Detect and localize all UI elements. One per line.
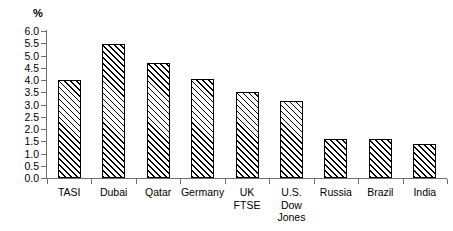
y-axis-tick-label-wrapper: 1.5 bbox=[0, 141, 39, 142]
plot-area bbox=[47, 31, 447, 178]
y-axis-tick-label: 5.5 bbox=[0, 38, 39, 48]
y-axis-tick bbox=[41, 56, 46, 57]
y-axis-tick bbox=[41, 105, 46, 106]
x-axis-tick bbox=[358, 179, 359, 184]
y-axis-tick-label-wrapper: 0.5 bbox=[0, 166, 39, 167]
y-axis-tick-label-wrapper: 3.0 bbox=[0, 105, 39, 106]
x-axis-tick bbox=[47, 179, 48, 184]
bar bbox=[58, 80, 81, 178]
y-axis-tick bbox=[41, 92, 46, 93]
x-axis-tick bbox=[225, 179, 226, 184]
x-axis-tick bbox=[314, 179, 315, 184]
x-axis-category-label-line: Jones bbox=[256, 211, 326, 224]
x-axis-tick bbox=[269, 179, 270, 184]
y-axis-tick bbox=[41, 166, 46, 167]
x-axis-tick bbox=[447, 179, 448, 184]
y-axis-tick-label: 3.5 bbox=[0, 87, 39, 97]
y-axis-tick-label-wrapper: 4.0 bbox=[0, 80, 39, 81]
bar-chart: % 0.00.51.01.52.02.53.03.54.04.55.05.56.… bbox=[0, 0, 453, 231]
bar bbox=[147, 63, 170, 178]
x-axis-category-label-line: India bbox=[390, 186, 453, 199]
y-axis-tick-label: 2.5 bbox=[0, 112, 39, 122]
y-axis-tick-label-wrapper: 3.5 bbox=[0, 92, 39, 93]
x-axis-line bbox=[46, 178, 447, 179]
y-axis-tick bbox=[41, 117, 46, 118]
y-axis-tick bbox=[41, 178, 46, 179]
y-axis-tick-label-wrapper: 2.0 bbox=[0, 129, 39, 130]
y-axis-tick-label-wrapper: 4.5 bbox=[0, 68, 39, 69]
x-axis-tick bbox=[180, 179, 181, 184]
bar bbox=[191, 79, 214, 178]
y-axis-tick-label: 0.5 bbox=[0, 161, 39, 171]
y-axis-tick bbox=[41, 80, 46, 81]
bar bbox=[236, 92, 259, 178]
y-axis-tick-label: 0.0 bbox=[0, 173, 39, 183]
y-axis-tick-label-wrapper: 5.5 bbox=[0, 43, 39, 44]
y-axis-tick bbox=[41, 31, 46, 32]
y-axis-tick bbox=[41, 141, 46, 142]
y-axis-tick bbox=[41, 154, 46, 155]
y-axis-tick-label: 6.0 bbox=[0, 26, 39, 36]
x-axis-tick bbox=[403, 179, 404, 184]
bar bbox=[102, 44, 125, 178]
y-axis-tick-label: 1.0 bbox=[0, 149, 39, 159]
y-axis-tick bbox=[41, 68, 46, 69]
x-axis-category-label: India bbox=[390, 186, 453, 199]
x-axis-tick bbox=[91, 179, 92, 184]
y-axis-tick-label: 2.0 bbox=[0, 124, 39, 134]
bar bbox=[413, 144, 436, 178]
y-axis-tick-label-wrapper: 0.0 bbox=[0, 178, 39, 179]
x-axis-category-label-line: Dow bbox=[256, 199, 326, 212]
bar bbox=[280, 101, 303, 178]
y-axis-tick-label-wrapper: 1.0 bbox=[0, 154, 39, 155]
y-axis-tick-label: 3.0 bbox=[0, 100, 39, 110]
y-axis-tick-label: 4.5 bbox=[0, 63, 39, 73]
y-axis-tick-label-wrapper: 6.0 bbox=[0, 31, 39, 32]
y-axis-tick-label: 4.0 bbox=[0, 75, 39, 85]
y-axis-tick bbox=[41, 43, 46, 44]
bar bbox=[369, 139, 392, 178]
y-axis-tick-label-wrapper: 5.0 bbox=[0, 56, 39, 57]
y-axis-tick-label: 1.5 bbox=[0, 136, 39, 146]
y-axis-unit-label: % bbox=[33, 7, 43, 19]
x-axis-tick bbox=[136, 179, 137, 184]
y-axis-tick bbox=[41, 129, 46, 130]
y-axis-tick-label: 5.0 bbox=[0, 51, 39, 61]
bar bbox=[324, 139, 347, 178]
y-axis-tick-label-wrapper: 2.5 bbox=[0, 117, 39, 118]
